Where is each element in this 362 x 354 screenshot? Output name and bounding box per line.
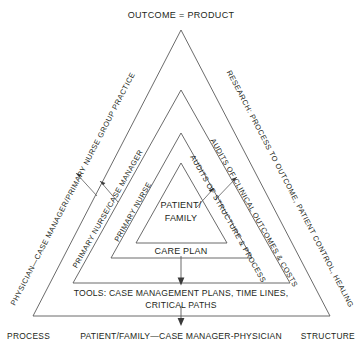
bottom-center-label: PATIENT/FAMILY—CASE MANAGER-PHYSICIAN [80, 331, 282, 341]
corner-label-process: PROCESS [7, 331, 50, 341]
tools-label-line2: CRITICAL PATHS [145, 300, 216, 310]
triangle-third [111, 133, 252, 258]
care-plan-label: CARE PLAN [155, 246, 208, 256]
center-label-line1: PATIENT/ [161, 200, 202, 210]
center-label-line2: FAMILY [165, 213, 198, 223]
diagram-canvas: OUTCOME = PRODUCT PROCESS STRUCTURE PATI… [0, 0, 362, 354]
tools-label-line1: TOOLS: CASE MANAGEMENT PLANS, TIME LINES… [74, 288, 289, 298]
corner-label-structure: STRUCTURE [301, 331, 355, 341]
nested-triangle-diagram: OUTCOME = PRODUCT PROCESS STRUCTURE PATI… [0, 0, 362, 354]
page-title: OUTCOME = PRODUCT [128, 10, 235, 20]
flow-arrow-care-plan [178, 256, 185, 286]
